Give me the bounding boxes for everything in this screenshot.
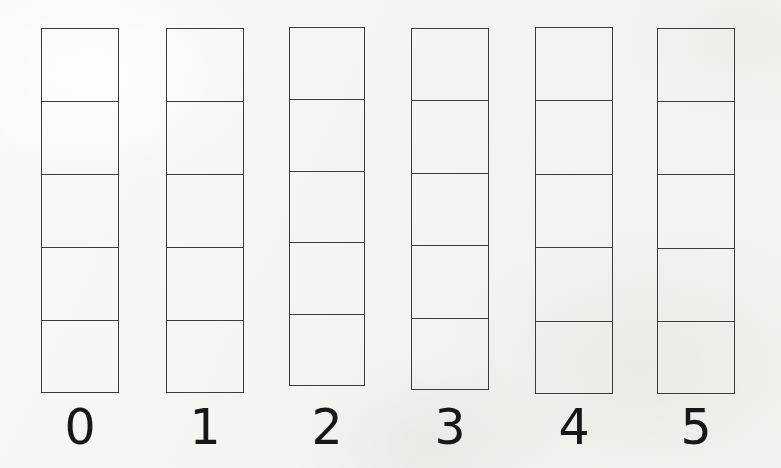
column-cell[interactable] (289, 27, 365, 99)
column-cell[interactable] (657, 248, 735, 321)
column-cell[interactable] (166, 101, 244, 174)
column-label-0: 0 (41, 403, 119, 452)
column-grid-diagram: 012345 (0, 0, 781, 468)
column-cell[interactable] (535, 321, 613, 394)
column-cell[interactable] (411, 28, 489, 100)
column-cell[interactable] (411, 173, 489, 245)
column-cell[interactable] (166, 247, 244, 320)
column-stack (535, 27, 613, 394)
column-cell[interactable] (41, 320, 119, 393)
column-cell[interactable] (657, 321, 735, 394)
column-cell[interactable] (657, 101, 735, 174)
column-stack (166, 28, 244, 393)
column-label-1: 1 (166, 403, 244, 452)
column-cell[interactable] (41, 28, 119, 101)
column-stack (411, 28, 489, 390)
column-cell[interactable] (411, 318, 489, 390)
column-stack (41, 28, 119, 393)
column-cell[interactable] (535, 247, 613, 320)
column-stack (657, 28, 735, 394)
column-cell[interactable] (657, 28, 735, 101)
column-cell[interactable] (657, 174, 735, 247)
column-cell[interactable] (289, 314, 365, 386)
column-stack (289, 27, 365, 386)
column-cell[interactable] (41, 174, 119, 247)
column-label-4: 4 (535, 403, 613, 452)
column-label-2: 2 (289, 403, 365, 452)
column-cell[interactable] (289, 242, 365, 314)
column-cell[interactable] (535, 27, 613, 100)
column-cell[interactable] (166, 174, 244, 247)
column-cell[interactable] (535, 174, 613, 247)
column-label-5: 5 (657, 403, 735, 452)
column-cell[interactable] (289, 171, 365, 243)
column-cell[interactable] (166, 320, 244, 393)
column-cell[interactable] (166, 28, 244, 101)
column-cell[interactable] (289, 99, 365, 171)
column-cell[interactable] (411, 245, 489, 317)
column-cell[interactable] (41, 101, 119, 174)
column-cell[interactable] (535, 100, 613, 173)
column-cell[interactable] (411, 100, 489, 172)
column-cell[interactable] (41, 247, 119, 320)
column-label-3: 3 (411, 403, 489, 452)
